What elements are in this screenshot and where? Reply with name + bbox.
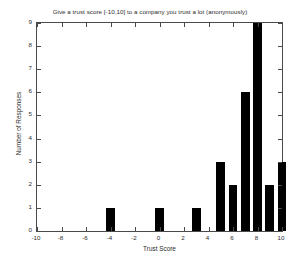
x-tick-label: -2	[122, 234, 146, 241]
y-tick-label: 0	[18, 226, 32, 233]
y-axis-tick	[278, 69, 282, 70]
y-axis-tick	[278, 231, 282, 232]
x-tick-label: 6	[220, 234, 244, 241]
x-tick-label: -6	[73, 234, 97, 241]
x-tick-label: 8	[245, 234, 269, 241]
x-tick-label: 4	[196, 234, 220, 241]
y-axis-tick	[37, 162, 41, 163]
y-axis-tick	[278, 162, 282, 163]
x-axis-tick	[135, 227, 136, 231]
y-axis-tick	[278, 92, 282, 93]
y-axis-tick	[278, 115, 282, 116]
bar	[278, 162, 287, 231]
chart-figure: Give a trust score [-10,10] to a company…	[0, 0, 300, 268]
bar	[216, 162, 225, 231]
y-axis-tick	[37, 23, 41, 24]
y-axis-tick	[37, 185, 41, 186]
x-axis-tick	[233, 227, 234, 231]
x-axis-tick	[258, 227, 259, 231]
x-axis-tick	[160, 23, 161, 27]
bars-layer	[37, 23, 282, 231]
x-axis-tick	[282, 227, 283, 231]
y-tick-label: 8	[18, 41, 32, 48]
y-axis-tick	[37, 139, 41, 140]
y-axis-tick	[278, 23, 282, 24]
y-axis-tick	[37, 46, 41, 47]
y-axis-tick	[37, 208, 41, 209]
x-axis-tick	[62, 23, 63, 27]
x-axis-tick	[135, 23, 136, 27]
x-axis-label: Trust Score	[36, 245, 283, 252]
y-axis-tick	[278, 139, 282, 140]
x-axis-tick	[184, 227, 185, 231]
y-axis-tick	[37, 231, 41, 232]
x-tick-label: 0	[147, 234, 171, 241]
y-axis-tick	[278, 46, 282, 47]
y-axis-tick	[278, 185, 282, 186]
x-axis-tick	[282, 23, 283, 27]
x-axis-tick	[209, 23, 210, 27]
bar	[253, 23, 262, 231]
bar	[192, 208, 201, 231]
y-axis-tick	[37, 69, 41, 70]
x-axis-tick	[62, 227, 63, 231]
x-tick-label: 10	[269, 234, 293, 241]
x-tick-label: 2	[171, 234, 195, 241]
x-axis-tick	[233, 23, 234, 27]
y-axis-label: Number of Responses	[15, 54, 22, 194]
x-axis-tick	[86, 23, 87, 27]
x-axis-tick	[209, 227, 210, 231]
bar	[265, 185, 274, 231]
y-axis-tick	[37, 115, 41, 116]
bar	[241, 92, 250, 231]
x-axis-tick	[184, 23, 185, 27]
x-tick-label: -8	[49, 234, 73, 241]
x-axis-tick	[111, 227, 112, 231]
bar	[229, 185, 238, 231]
x-tick-label: -10	[24, 234, 48, 241]
plot-area	[36, 22, 283, 232]
y-tick-label: 1	[18, 203, 32, 210]
x-tick-label: -4	[98, 234, 122, 241]
x-axis-tick	[111, 23, 112, 27]
x-axis-tick	[258, 23, 259, 27]
chart-title: Give a trust score [-10,10] to a company…	[0, 8, 300, 15]
x-axis-tick	[160, 227, 161, 231]
y-axis-tick	[37, 92, 41, 93]
y-tick-label: 9	[18, 18, 32, 25]
x-axis-tick	[86, 227, 87, 231]
y-axis-tick	[278, 208, 282, 209]
